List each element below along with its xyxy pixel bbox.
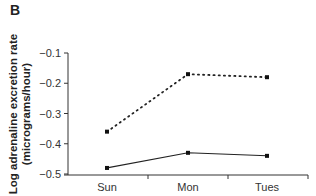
y-tick-label: −0.2	[39, 77, 61, 89]
y-tick-label: −0.1	[39, 47, 61, 59]
y-tick-label: −0.4	[39, 138, 61, 150]
data-point-marker	[186, 151, 190, 155]
line-chart: −0.1−0.2−0.3−0.4−0.5SunMonTues	[0, 0, 316, 196]
series-line-solid	[107, 153, 267, 168]
x-tick-label: Tues	[255, 181, 280, 193]
y-tick-label: −0.3	[39, 108, 61, 120]
data-point-marker	[105, 130, 109, 134]
data-point-marker	[265, 154, 269, 158]
data-point-marker	[105, 166, 109, 170]
series-line-dotted	[107, 74, 267, 132]
x-tick-label: Sun	[97, 181, 117, 193]
data-point-marker	[265, 75, 269, 79]
data-point-marker	[186, 72, 190, 76]
y-tick-label: −0.5	[39, 168, 61, 180]
x-tick-label: Mon	[177, 181, 198, 193]
